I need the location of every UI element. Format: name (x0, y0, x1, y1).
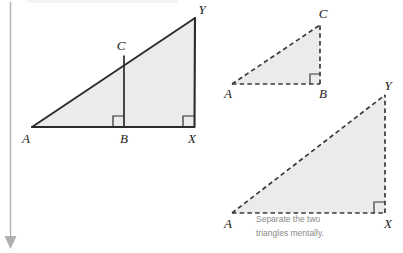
label-x-large: X (383, 216, 393, 231)
label-c-combined: C (117, 38, 126, 53)
triangle-abc: A B C (223, 6, 328, 101)
caption-line-2: triangles mentally. (256, 228, 324, 238)
overlapping-triangles: A B C X Y (21, 2, 207, 146)
label-y-large: Y (384, 78, 393, 93)
triangle-axy: A X Y (223, 78, 393, 231)
caption-line-1: Separate the two (256, 214, 321, 224)
label-a-combined: A (21, 131, 30, 146)
label-b-small: B (319, 86, 327, 101)
label-b-combined: B (120, 131, 128, 146)
margin-arrow-down-icon (5, 236, 17, 249)
label-y-combined: Y (198, 2, 207, 17)
segment-xy (195, 18, 196, 127)
figure-canvas: A B C X Y A B C A X Y (0, 0, 403, 253)
label-a-large: A (223, 216, 232, 231)
page-top-cutoff-strip (28, 0, 178, 3)
caption: Separate the two triangles mentally. (256, 214, 324, 238)
left-margin-rule (5, 2, 17, 249)
label-a-small: A (223, 86, 232, 101)
label-c-small: C (319, 6, 328, 21)
label-x-combined: X (187, 131, 197, 146)
geometry-figure: A B C X Y A B C A X Y (0, 0, 403, 253)
